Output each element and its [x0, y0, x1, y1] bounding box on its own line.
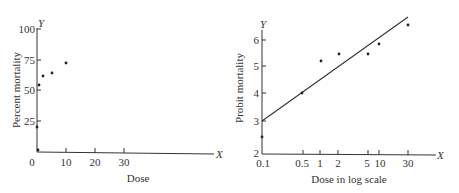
data-point [338, 53, 341, 56]
left-ytick-label: 50 [24, 84, 36, 96]
left-chart: Y X 100 75 50 25 0 10 20 30 Dose Percent… [10, 17, 224, 184]
left-x-axis [37, 152, 214, 154]
left-xtick-label: 20 [90, 156, 102, 168]
data-point [378, 43, 381, 46]
right-y-title: Probit mortality [233, 53, 245, 123]
data-point [301, 92, 304, 95]
data-point [367, 53, 370, 56]
left-y-letter: Y [38, 17, 46, 29]
data-point [65, 62, 68, 65]
left-xtick-label: 10 [61, 156, 73, 168]
left-xtick-label: 30 [119, 156, 131, 168]
data-point [37, 149, 40, 152]
data-point [320, 60, 323, 63]
data-point [407, 24, 410, 27]
right-y-letter: Y [260, 18, 268, 30]
data-point [42, 75, 45, 78]
left-xtick-label: 0 [29, 156, 35, 168]
right-chart: Y X 6 5 4 3 2 0.1 0.5 1 2 5 10 30 Dose i… [233, 17, 445, 185]
data-point [36, 126, 39, 129]
data-point [51, 72, 54, 75]
right-x-axis [262, 154, 436, 155]
right-xtick-label: 10 [375, 157, 387, 169]
left-ytick-label: 25 [24, 115, 36, 127]
data-point [261, 136, 264, 139]
right-xtick-label: 2 [335, 157, 341, 169]
right-x-title: Dose in log scale [311, 173, 387, 185]
right-x-letter: X [436, 149, 445, 161]
right-ytick-label: 5 [254, 60, 260, 72]
left-ytick-label: 100 [19, 23, 36, 35]
left-x-title: Dose [127, 172, 150, 184]
right-xtick-label: 1 [317, 157, 323, 169]
data-point [38, 84, 41, 87]
right-xtick-label: 30 [403, 157, 415, 169]
right-ytick-label: 3 [254, 115, 260, 127]
left-ytick-label: 75 [24, 54, 36, 66]
right-ytick-label: 4 [254, 87, 260, 99]
right-xtick-label: 5 [364, 157, 370, 169]
left-y-title: Percent mortality [10, 51, 22, 128]
regression-line [262, 17, 408, 121]
right-ytick-label: 6 [254, 34, 260, 46]
left-x-letter: X [215, 148, 224, 160]
right-xtick-label: 0.1 [256, 157, 270, 169]
figure: Y X 100 75 50 25 0 10 20 30 Dose Percent… [0, 0, 459, 193]
right-xtick-label: 0.5 [295, 157, 309, 169]
